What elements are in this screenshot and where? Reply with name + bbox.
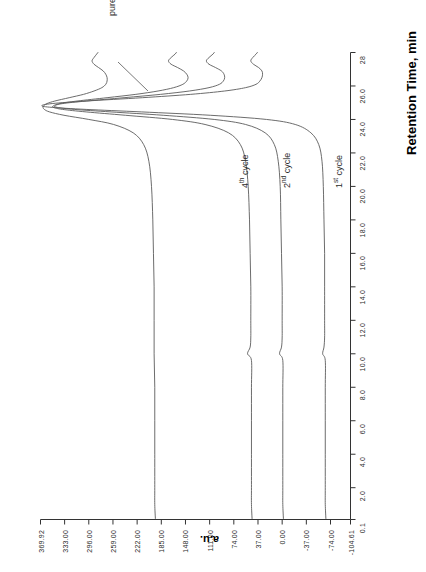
annotation-1st-cycle-word: cycle	[334, 155, 344, 178]
x-tick-label-4: 8.0	[359, 390, 366, 400]
x-tick-label-3: 6.0	[359, 424, 366, 434]
annotation-2nd-cycle-word: cycle	[282, 153, 292, 176]
annotation-4th-cycle-ordinal: th	[238, 178, 245, 183]
x-tick-label-2: 4.0	[359, 457, 366, 467]
y-tick-label-2: 296.00	[86, 530, 93, 553]
y-axis-ticks	[41, 520, 351, 525]
y-tick-label-4: 222.00	[134, 530, 141, 553]
x-tick-label-9: 18.0	[359, 223, 366, 237]
y-tick-label-10: 0.00	[279, 530, 286, 544]
annotation-4th-cycle-number: 4	[240, 183, 250, 188]
annotation-4th-cycle: 4th cycle	[241, 155, 250, 188]
annotation-4th-cycle-word: cycle	[240, 155, 250, 178]
plot-canvas	[33, 39, 393, 534]
y-tick-label-8: 74.00	[231, 530, 238, 549]
y-tick-label-6: 148.00	[182, 530, 189, 553]
annotation-1st-cycle-ordinal: st	[332, 178, 339, 183]
y-tick-label-9: 37.00	[255, 530, 262, 549]
trace-2nd-cycle	[54, 53, 283, 520]
y-tick-label-5: 185.00	[158, 530, 165, 553]
y-tick-label-0: 369.92	[38, 530, 45, 553]
x-tick-label-7: 14.0	[359, 290, 366, 304]
x-tick-label-1: 2.0	[359, 491, 366, 501]
annotation-2nd-cycle: 2nd cycle	[283, 153, 292, 188]
y-tick-label-11: -37.00	[303, 530, 310, 551]
x-axis-title: Retention Time, min	[404, 31, 419, 155]
annotation-pure-thf: pure THF	[108, 0, 117, 16]
annotation-2nd-cycle-number: 2	[282, 183, 292, 188]
trace-pure-thf	[43, 53, 155, 520]
x-tick-label-0: 0.1	[359, 523, 366, 533]
annotation-1st-cycle: 1st cycle	[335, 155, 344, 188]
annotation-2nd-cycle-ordinal: nd	[280, 176, 287, 183]
x-tick-label-5: 10.0	[359, 357, 366, 371]
x-tick-label-10: 20.0	[359, 189, 366, 203]
trace-1st-cycle	[42, 53, 326, 520]
y-axis-title: a.u.	[200, 534, 219, 546]
trace-group	[42, 53, 326, 520]
x-tick-label-8: 16.0	[359, 256, 366, 270]
y-tick-label-13: -104.61	[348, 530, 355, 555]
x-axis-ticks	[351, 53, 356, 520]
y-tick-label-12: -74.00	[328, 530, 335, 551]
y-tick-label-3: 259.00	[110, 530, 117, 553]
chromatogram-figure: 369.92333.00296.00259.00222.00185.00148.…	[0, 0, 426, 572]
x-tick-label-12: 24.0	[359, 122, 366, 136]
x-tick-label-13: 26.0	[359, 89, 366, 103]
x-tick-label-14: 28	[359, 56, 366, 64]
x-tick-label-11: 22.0	[359, 156, 366, 170]
x-tick-label-6: 12.0	[359, 323, 366, 337]
y-tick-label-1: 333.00	[62, 530, 69, 553]
trace-4th-cycle	[53, 53, 253, 520]
plot-area	[33, 39, 393, 534]
annotation-1st-cycle-number: 1	[334, 183, 344, 188]
